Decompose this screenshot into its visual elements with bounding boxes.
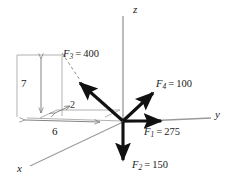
force-label-F1: F1 = 275 (144, 127, 180, 138)
force-subscript-F4: 4 (162, 82, 166, 91)
force-subscript-F2: 2 (138, 163, 142, 172)
dimension-2-group (55, 106, 70, 113)
dimension-2-line (55, 106, 70, 113)
force-diagram-figure: z y x F1 = 275 F2 = 150 F3 = 400 F4 = 10… (0, 0, 236, 192)
dimension-label-7: 7 (21, 78, 27, 89)
force-equals-F4: = (168, 78, 174, 89)
force-vector-F4 (123, 93, 153, 121)
force-equals-F2: = (144, 159, 150, 170)
dimension-label-6: 6 (52, 126, 58, 137)
axis-label-z: z (133, 4, 137, 15)
axis-group (30, 16, 211, 166)
force-magnitude-F2: 150 (152, 159, 168, 170)
diagram-canvas (0, 0, 236, 192)
axis-label-x: x (17, 163, 22, 174)
force-subscript-F3: 3 (69, 52, 73, 61)
force-label-F4: F4 = 100 (156, 79, 192, 90)
force-magnitude-F4: 100 (176, 78, 192, 89)
force-vector-F3 (80, 83, 123, 121)
force-magnitude-F1: 275 (164, 126, 180, 137)
x-axis-line (30, 122, 123, 166)
axis-label-y: y (215, 109, 220, 120)
dimension-label-2: 2 (70, 100, 75, 110)
force-equals-F3: = (75, 48, 81, 59)
force-label-F2: F2 = 150 (132, 160, 168, 171)
force-equals-F1: = (156, 126, 162, 137)
force-label-F3: F3 = 400 (63, 49, 99, 60)
construction-base-left-slant (40, 110, 57, 118)
construction-group (17, 55, 123, 121)
force-subscript-F1: 1 (150, 130, 154, 139)
force-magnitude-F3: 400 (83, 48, 99, 59)
